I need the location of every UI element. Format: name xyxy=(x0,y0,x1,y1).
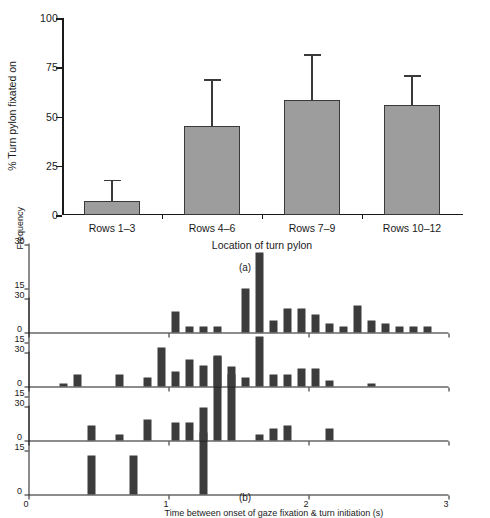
panel-a-bar xyxy=(84,201,140,215)
panel-a-bar xyxy=(384,105,440,215)
panel-b-histogram-bar xyxy=(255,336,263,386)
panel-b-caption: (b) xyxy=(239,492,251,503)
panel-b-histogram-bar xyxy=(213,326,221,332)
panel-b-histogram-bar xyxy=(185,326,193,332)
panel-a-y-tick-label: 50 xyxy=(46,111,58,123)
panel-a-plot-area: 0255075100 xyxy=(62,18,462,215)
panel-b-histogram-bar xyxy=(325,323,333,332)
panel-b-histogram-bar xyxy=(311,368,319,386)
panel-b-histogram-bar xyxy=(213,356,221,385)
panel-b-time-tick xyxy=(168,333,169,337)
panel-b-histogram-bar xyxy=(143,419,151,440)
panel-b-histogram-bar xyxy=(269,374,277,386)
panel-b-histogram-bar xyxy=(255,434,263,440)
panel-b-time-axis-label: Time between onset of gaze fixation & tu… xyxy=(164,507,364,518)
panel-b-histogram-bar xyxy=(283,308,291,331)
panel-b-histogram-bar xyxy=(59,383,67,386)
panel-a-error-bar-cap xyxy=(404,75,421,77)
panel-b-histogram-bar xyxy=(311,314,319,332)
panel-b-histogram-bar xyxy=(367,320,375,332)
panel-b-frequency-tick xyxy=(24,298,28,299)
panel-a-x-axis-label: Location of turn pylon xyxy=(212,239,312,251)
panel-a-error-bar-cap xyxy=(104,180,121,182)
panel-a-error-bar xyxy=(311,54,313,99)
panel-b-histogram-bar xyxy=(129,455,137,493)
panel-a-x-tick xyxy=(362,215,363,219)
panel-b-histogram: 01530 xyxy=(28,399,448,441)
panel-a-y-tick-label: 0 xyxy=(52,209,58,221)
panel-b-histogram-bar xyxy=(87,425,95,440)
panel-b-histogram-bar xyxy=(199,365,207,386)
panel-b-frequency-tick-label: 30 xyxy=(14,289,24,299)
panel-b-histogram-bar xyxy=(185,422,193,440)
panel-b-frequency-tick xyxy=(24,450,28,451)
panel-b-frequency-tick-label: 15 xyxy=(14,387,24,397)
panel-b-histogram-bar xyxy=(157,347,165,385)
panel-b-histogram-bar xyxy=(353,305,361,331)
panel-b-time-tick xyxy=(448,387,449,391)
panel-b-frequency-tick-label: 15 xyxy=(14,333,24,343)
panel-b-histogram-bar xyxy=(395,326,403,332)
panel-b-frequency-tick xyxy=(24,494,28,495)
panel-a-error-bar xyxy=(211,79,213,126)
panel-b-histogram: 015300123 xyxy=(28,453,448,495)
panel-b-rotated-group: 015300123015300153001530FrequencyTime be… xyxy=(14,296,476,503)
panel-b-histogram-bar xyxy=(185,359,193,385)
panel-b-histogram-bar xyxy=(283,425,291,440)
panel-b-frequency-tick xyxy=(24,396,28,397)
panel-a-x-tick xyxy=(262,215,263,219)
panel-b-time-tick xyxy=(308,387,309,391)
panel-a-y-tick-label: 100 xyxy=(40,12,58,24)
panel-b-time-tick xyxy=(448,333,449,337)
panel-b-frequency-tick xyxy=(24,406,28,407)
panel-b-histogram-bar xyxy=(269,320,277,332)
panel-b-time-tick xyxy=(28,333,29,337)
panel-b-frequency-tick-label: 15 xyxy=(14,279,24,289)
panel-b-histogram-bar xyxy=(409,326,417,332)
panel-b-time-tick xyxy=(28,441,29,445)
panel-b-histogram-bar xyxy=(381,323,389,332)
panel-b-histogram-bar xyxy=(241,377,249,386)
panel-b-time-tick xyxy=(308,333,309,337)
panel-b-histograms: 015300123015300153001530FrequencyTime be… xyxy=(0,296,490,503)
panel-b-frequency-tick-label: 0 xyxy=(16,377,21,387)
panel-a-category-label: Rows 10–12 xyxy=(383,222,441,234)
panel-b-frequency-axis-label: Frequency xyxy=(14,206,24,249)
panel-a-caption: (a) xyxy=(239,262,251,273)
panel-a-category-label: Rows 7–9 xyxy=(289,222,336,234)
panel-b-time-tick-label: 3 xyxy=(443,498,448,508)
panel-b-time-tick-label: 2 xyxy=(303,498,308,508)
panel-b-histogram-bar xyxy=(171,371,179,386)
panel-b-frequency-tick xyxy=(24,244,28,245)
panel-b-frequency-tick xyxy=(24,352,28,353)
panel-a-category-label: Rows 4–6 xyxy=(189,222,236,234)
panel-b-time-tick xyxy=(28,387,29,391)
panel-a-y-axis-label: % Turn pylon fixated on xyxy=(6,61,18,171)
panel-a-bar xyxy=(284,100,340,215)
panel-b-histogram-bar xyxy=(199,326,207,332)
panel-b-histogram-bar xyxy=(283,374,291,386)
panel-b-frequency-tick-label: 0 xyxy=(16,323,21,333)
panel-b-histogram: 01530 xyxy=(28,345,448,387)
panel-a-error-bar xyxy=(111,180,113,202)
panel-b-frequency-tick xyxy=(24,440,28,441)
panel-b-histogram-bar xyxy=(325,428,333,440)
panel-a-category-label: Rows 1–3 xyxy=(89,222,136,234)
panel-b-histogram-bar xyxy=(255,252,263,331)
panel-a-y-tick-label: 75 xyxy=(46,61,58,73)
panel-b-frequency-tick xyxy=(24,288,28,289)
panel-a-error-bar-cap xyxy=(204,79,221,81)
panel-a-error-bar xyxy=(411,75,413,105)
panel-b-time-tick-label: 1 xyxy=(163,498,168,508)
panel-b-histogram-bar xyxy=(87,455,95,493)
panel-b-frequency-tick xyxy=(24,386,28,387)
panel-b-frequency-tick-label: 30 xyxy=(14,343,24,353)
panel-b-histogram-bar xyxy=(269,428,277,440)
panel-b-histogram-bar xyxy=(325,380,333,386)
panel-b-time-tick xyxy=(168,441,169,445)
panel-b-histogram-bar xyxy=(241,288,249,332)
panel-b-histogram-bar xyxy=(297,308,305,331)
panel-b-frequency-tick xyxy=(24,332,28,333)
panel-b-histogram-bar xyxy=(423,326,431,332)
